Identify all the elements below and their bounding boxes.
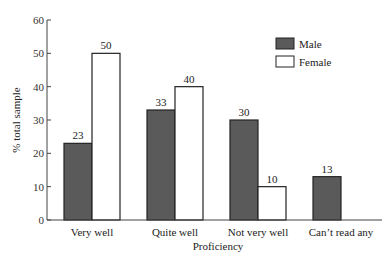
data-label: 13	[322, 163, 334, 175]
category-label: Not very well	[228, 226, 288, 238]
bar-male	[230, 120, 258, 220]
y-tick-label: 20	[33, 147, 45, 159]
legend-swatch-female	[276, 56, 294, 67]
bar-female	[92, 53, 120, 220]
data-label: 10	[267, 173, 279, 185]
bar-male	[147, 110, 175, 220]
y-axis: 0102030405060	[33, 14, 51, 226]
data-label: 50	[101, 39, 113, 51]
category-label: Quite well	[152, 226, 198, 238]
y-tick-label: 60	[33, 14, 45, 26]
y-tick-label: 30	[33, 114, 45, 126]
y-tick-label: 40	[33, 81, 45, 93]
category-label: Can’t read any	[309, 226, 374, 238]
bar-female	[175, 87, 203, 220]
bar-female	[258, 187, 286, 220]
bar-male	[64, 143, 92, 220]
bar-group: 2350	[64, 39, 120, 220]
data-label: 23	[73, 129, 85, 141]
y-tick-label: 50	[33, 47, 45, 59]
bar-group: 3340	[147, 73, 203, 220]
legend-label-male: Male	[299, 38, 322, 50]
bar-group: 13	[313, 163, 341, 220]
bar-male	[313, 177, 341, 220]
bar-group: 3010	[230, 106, 286, 220]
y-tick-label: 0	[39, 214, 45, 226]
x-axis: Very wellQuite wellNot very wellCan’t re…	[47, 220, 382, 238]
bar-chart: 0102030405060 23503340301013 Very wellQu…	[0, 0, 391, 271]
legend-swatch-male	[276, 38, 294, 49]
legend-label-female: Female	[299, 56, 331, 68]
category-label: Very well	[71, 226, 113, 238]
data-label: 30	[239, 106, 251, 118]
x-axis-title: Proficiency	[193, 240, 244, 252]
y-axis-title: % total sample	[10, 87, 22, 152]
y-tick-label: 10	[33, 181, 45, 193]
legend: MaleFemale	[276, 38, 331, 68]
data-label: 40	[184, 73, 196, 85]
data-label: 33	[156, 96, 168, 108]
